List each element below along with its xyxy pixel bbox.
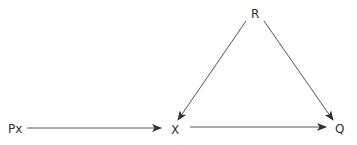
node-q-label: Q: [335, 122, 344, 136]
edge-r-to-x: [178, 21, 246, 120]
node-x-label: X: [171, 123, 179, 137]
edge-r-to-q: [264, 21, 333, 120]
node-r-label: R: [251, 7, 259, 21]
node-px-label: Px: [8, 122, 22, 136]
diagram-canvas: R Px X Q: [0, 0, 357, 145]
